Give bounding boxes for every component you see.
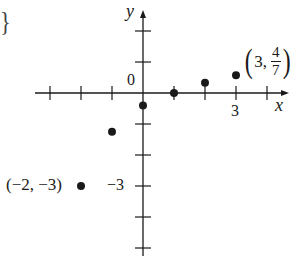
data-point bbox=[77, 182, 85, 190]
origin-label: 0 bbox=[127, 72, 135, 88]
data-point bbox=[139, 101, 147, 109]
coordinate-plane bbox=[0, 0, 296, 258]
point-label-x: 3, bbox=[254, 52, 267, 71]
fraction-4-7: 47 bbox=[271, 45, 281, 78]
fraction-numerator: 4 bbox=[271, 45, 281, 62]
data-point bbox=[232, 71, 240, 79]
y-axis-arrow-icon bbox=[140, 10, 146, 18]
data-point bbox=[108, 128, 116, 136]
axis-ticks bbox=[50, 31, 267, 248]
data-points bbox=[77, 71, 240, 190]
close-paren: ) bbox=[282, 44, 290, 78]
x-tick-label-3: 3 bbox=[231, 103, 239, 119]
point-label-3-4-7: (3,47) bbox=[243, 44, 292, 78]
y-tick-label-neg3: −3 bbox=[107, 177, 124, 193]
fraction-denominator: 7 bbox=[271, 62, 281, 78]
x-axis-label: x bbox=[275, 96, 283, 114]
data-point bbox=[201, 79, 209, 87]
data-point bbox=[170, 89, 178, 97]
open-paren: ( bbox=[245, 44, 253, 78]
y-axis-label: y bbox=[126, 2, 134, 20]
point-label-neg2-neg3: (−2, −3) bbox=[6, 176, 62, 193]
